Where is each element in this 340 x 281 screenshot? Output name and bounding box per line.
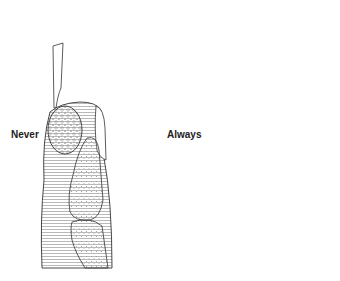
scalpel-blade: [53, 43, 63, 108]
label-never: Never: [11, 129, 39, 140]
illustration: [0, 0, 340, 281]
left-panel: [41, 43, 112, 268]
label-always: Always: [167, 129, 201, 140]
lesion-oval: [48, 106, 82, 154]
